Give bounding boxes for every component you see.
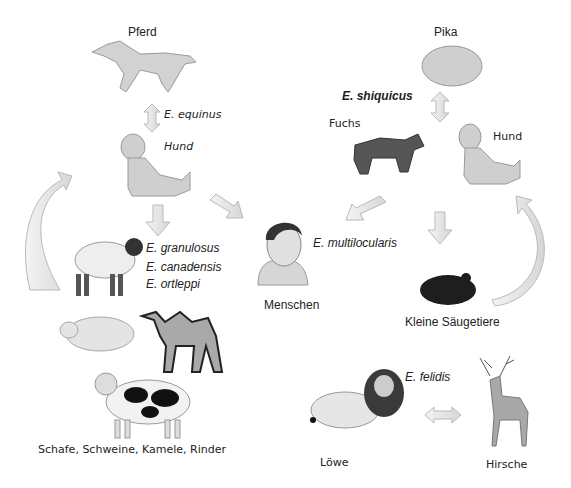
sheep-icon [75,238,143,296]
curved-arrow-icon [492,196,544,306]
pig-icon [60,317,134,351]
species-e-granulosus: E. granulosus [146,241,219,255]
dog-label-left: Hund [164,140,193,153]
diagonal-arrow-icon [210,194,243,218]
species-e-canadensis: E. canadensis [146,260,221,274]
horse-label: Pferd [128,25,157,39]
horse-icon [92,41,196,92]
deer-label: Hirsche [486,458,527,471]
small-mammals-label: Kleine Säugetiere [405,315,500,329]
species-e-equinus: E. equinus [164,108,221,121]
dog-label-right: Hund [493,130,522,143]
diagram-artwork [0,0,571,488]
species-e-ortleppi: E. ortleppi [146,277,200,291]
fox-icon [354,134,424,174]
pika-label: Pika [434,25,457,39]
double-arrow-icon [144,104,160,132]
down-arrow-icon [146,205,170,236]
camel-icon [142,312,222,372]
double-arrow-icon [431,92,449,122]
diagonal-arrow-icon [346,196,386,220]
deer-icon [480,356,528,446]
livestock-caption: Schafe, Schweine, Kamele, Rinder [38,443,226,456]
species-e-shiquicus: E. shiquicus [342,89,413,103]
species-e-multilocularis: E. multilocularis [313,236,397,250]
human-icon [258,223,308,285]
fox-label: Fuchs [329,117,360,130]
cow-icon [95,373,190,438]
human-label: Menschen [264,298,319,312]
lion-icon [310,369,404,428]
pika-icon [422,46,482,86]
horizontal-double-arrow-icon [425,407,461,423]
down-arrow-icon [428,212,452,244]
species-e-felidis: E. felidis [405,370,450,384]
mouse-icon [420,273,476,305]
lion-label: Löwe [320,456,348,469]
curved-arrow-icon [25,172,72,290]
